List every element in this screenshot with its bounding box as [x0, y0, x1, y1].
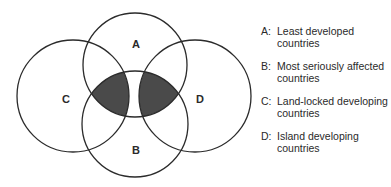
- legend-key: A:: [261, 26, 277, 38]
- legend-item-a: A: Least developed countries: [261, 26, 391, 49]
- circle-a-label: A: [132, 38, 140, 50]
- circle-d-label: D: [196, 93, 204, 105]
- legend-item-c: C: Land-locked developing countries: [261, 96, 391, 119]
- legend-text: Island developing countries: [277, 131, 391, 154]
- legend-text: Land-locked developing countries: [277, 96, 391, 119]
- legend-item-d: D: Island developing countries: [261, 131, 391, 154]
- legend-key: B:: [261, 61, 277, 73]
- circle-a: [83, 13, 187, 117]
- legend-key: D:: [261, 131, 277, 143]
- circle-b-label: B: [132, 144, 140, 156]
- legend-item-b: B: Most seriously affected countries: [261, 61, 391, 84]
- legend-text: Most seriously affected countries: [277, 61, 391, 84]
- legend-text: Least developed countries: [277, 26, 391, 49]
- legend-key: C:: [261, 96, 277, 108]
- circle-b: [82, 71, 188, 177]
- legend: A: Least developed countries B: Most ser…: [261, 26, 391, 166]
- circle-c-label: C: [62, 93, 70, 105]
